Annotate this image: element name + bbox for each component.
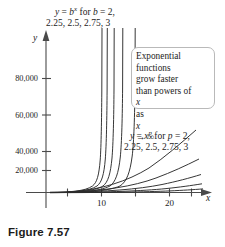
- exp-label-tail: = 2,: [98, 7, 115, 17]
- x-tick-label-10: 10: [91, 198, 113, 208]
- power-label-eq: =: [134, 131, 144, 141]
- power-label-line2: 2.25, 2.5, 2.75, 3: [124, 142, 190, 153]
- callout-line-4: than powers of x: [136, 86, 191, 109]
- y-tick-label-80000: 80,000: [4, 74, 38, 83]
- y-tick-label-40000: 40,000: [4, 147, 38, 156]
- y-tick-label-60000: 60,000: [4, 111, 38, 120]
- annotation-power-family: y = xp for p = 2, 2.25, 2.5, 2.75, 3: [130, 131, 190, 153]
- annotation-exponential-family: y = bx for b = 2, 2.25, 2.5, 2.75, 3: [55, 7, 115, 29]
- exponential-curves: [50, 28, 135, 193]
- axis-y: [43, 30, 50, 208]
- curve-exp-3: [50, 28, 102, 192]
- callout-line-2: functions: [136, 63, 191, 75]
- figure-caption: Figure 7.57: [8, 226, 70, 238]
- x-tick-label-20: 20: [159, 198, 181, 208]
- curve-exp-2p75: [50, 28, 107, 192]
- callout-line-1: Exponential: [136, 51, 191, 63]
- callout-line-5-text: as: [136, 109, 191, 121]
- exp-label-for: for: [77, 7, 93, 17]
- curve-exp-2p25: [50, 28, 123, 193]
- figure-container: y = bx for b = 2, 2.25, 2.5, 2.75, 3 Exp…: [0, 0, 225, 247]
- power-label-for: for: [152, 131, 168, 141]
- y-tick-label-20000: 20,000: [4, 166, 38, 175]
- exp-label-line2: 2.25, 2.5, 2.75, 3: [46, 18, 115, 29]
- callout-text: Exponential functions grow faster than p…: [136, 51, 191, 144]
- callout-line-4-text: than powers of: [136, 86, 191, 98]
- callout-line-4-var: x: [136, 97, 191, 109]
- callout-line-3: grow faster: [136, 74, 191, 86]
- axis-label-y: y: [33, 33, 37, 43]
- exp-label-eq: =: [59, 7, 69, 17]
- axis-label-x: x: [206, 193, 210, 203]
- power-label-tail: = 2,: [173, 131, 190, 141]
